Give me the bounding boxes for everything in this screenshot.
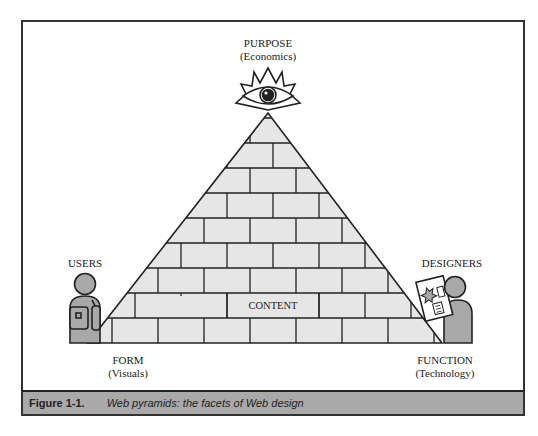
users-label: USERS [55, 257, 115, 270]
purpose-label: PURPOSE [228, 37, 308, 50]
function-label: FUNCTION (Technology) [400, 354, 490, 380]
apex-label: PURPOSE (Economics) [228, 37, 308, 63]
content-label: CONTENT [230, 299, 316, 312]
user-with-backpack-icon [70, 274, 100, 344]
form-text: FORM [98, 354, 158, 367]
figure-caption: Figure 1-1. Web pyramids: the facets of … [21, 390, 525, 416]
all-seeing-eye-icon [236, 68, 300, 110]
economics-sublabel: (Economics) [228, 50, 308, 63]
designers-label: DESIGNERS [412, 257, 492, 270]
function-text: FUNCTION [400, 354, 490, 367]
figure-number: Figure 1-1. [29, 397, 85, 409]
caption-text: Web pyramids: the facets of Web design [107, 397, 304, 409]
visuals-sublabel: (Visuals) [98, 367, 158, 380]
technology-sublabel: (Technology) [400, 367, 490, 380]
form-label: FORM (Visuals) [98, 354, 158, 380]
